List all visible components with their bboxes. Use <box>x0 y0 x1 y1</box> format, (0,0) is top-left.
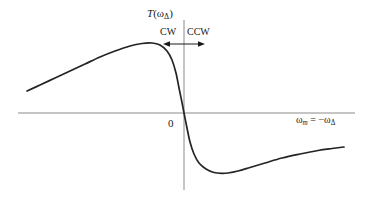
plot-canvas <box>0 0 367 208</box>
response-curve <box>27 43 344 174</box>
x-axis-label-subscript-delta: Δ <box>331 119 336 127</box>
axes-group <box>18 20 355 190</box>
x-axis-label-omega-delta: ω <box>324 114 331 125</box>
origin-label: 0 <box>168 118 174 129</box>
cw-arrow-head <box>163 41 170 47</box>
y-axis-label-close: ) <box>169 7 173 19</box>
cw-label: CW <box>160 27 176 37</box>
figure-container: T(ωΔ) CW CCW 0 ωm = −ωΔ <box>0 0 367 208</box>
ccw-label: CCW <box>187 27 210 37</box>
y-axis-label-omega: ω <box>157 7 164 19</box>
x-axis-label: ωm = −ωΔ <box>296 115 335 127</box>
y-axis-label: T(ωΔ) <box>147 8 173 21</box>
ccw-arrow-head <box>198 41 205 47</box>
x-axis-label-omega-m: ω <box>296 114 303 125</box>
x-axis-label-equals: = − <box>308 114 324 125</box>
